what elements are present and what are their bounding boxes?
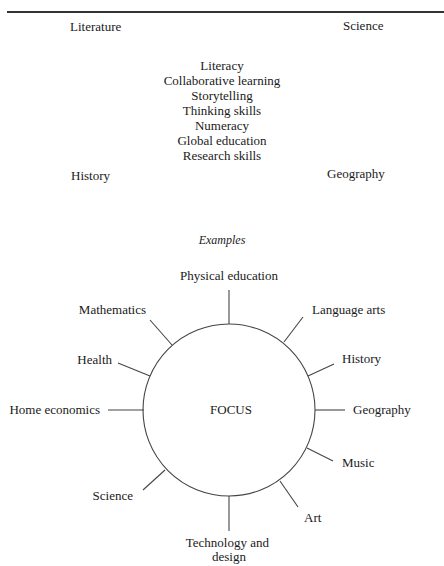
focus-label: FOCUS	[210, 402, 252, 417]
label-geography: Geography	[353, 402, 411, 417]
label-health: Health	[77, 352, 112, 367]
label-science: Science	[93, 488, 134, 503]
label-music: Music	[342, 455, 375, 470]
spoke-music	[307, 448, 333, 461]
label-physical-education: Physical education	[180, 268, 278, 283]
spoke-history	[308, 364, 334, 376]
spoke-language-arts	[284, 317, 303, 342]
focus-diagram: FOCUS Physical education Language arts H…	[0, 0, 444, 566]
label-language-arts: Language arts	[312, 302, 385, 317]
label-art: Art	[304, 510, 322, 525]
spoke-art	[280, 481, 298, 507]
label-mathematics: Mathematics	[79, 302, 146, 317]
spoke-science	[143, 470, 165, 490]
label-home-economics: Home economics	[9, 402, 100, 417]
spoke-mathematics	[150, 320, 172, 345]
label-history: History	[342, 351, 382, 366]
label-technology-design: Technology and design	[186, 535, 272, 564]
spoke-health	[118, 363, 150, 376]
